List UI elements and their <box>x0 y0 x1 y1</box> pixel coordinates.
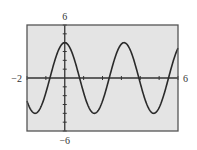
xmax-label: 6 <box>183 73 188 84</box>
xmin-label: −2 <box>11 73 22 84</box>
chart: −2 6 6 −6 <box>0 0 197 150</box>
ymin-label: −6 <box>59 135 70 146</box>
ymax-label: 6 <box>62 11 67 22</box>
